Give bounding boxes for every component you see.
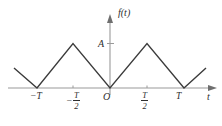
fraction-denominator: 2 (73, 101, 79, 110)
tick-label-neg-half-period: − T 2 (66, 91, 80, 110)
triangular-waveform-figure: f(t) A O t −T T − T 2 T 2 (0, 0, 222, 126)
tick-label-pos-period: T (176, 92, 181, 102)
fraction-numerator: T (73, 91, 80, 100)
origin-label: O (103, 92, 110, 102)
x-axis-label: t (207, 92, 210, 102)
tick-label-neg-period: −T (30, 92, 42, 102)
y-axis-arrowhead (107, 14, 113, 23)
minus-sign-glyph: − (66, 96, 72, 106)
fraction-denominator: 2 (141, 101, 147, 110)
fraction-numerator: T (141, 91, 148, 100)
function-axis-label: f(t) (118, 8, 130, 18)
fraction-pos-half: T 2 (141, 91, 148, 110)
plot-canvas (0, 0, 222, 126)
amplitude-label: A (98, 39, 104, 49)
tick-label-pos-half-period: T 2 (141, 91, 148, 110)
fraction-neg-half: T 2 (73, 91, 80, 110)
